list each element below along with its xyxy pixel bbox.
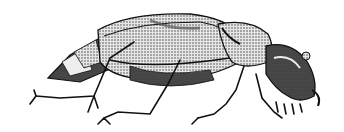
beetle-illustration — [0, 0, 344, 132]
head — [266, 45, 319, 106]
beetle-drawing — [0, 0, 344, 132]
